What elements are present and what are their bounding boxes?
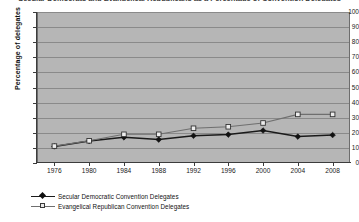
x-tick-label: 1980 — [74, 167, 104, 174]
data-point-marker — [330, 112, 335, 117]
y-axis-title: Percentage of delegates — [14, 0, 21, 104]
data-point-marker — [295, 134, 301, 140]
x-tick-label: 1996 — [213, 167, 243, 174]
chart-legend: Secular Democratic Convention Delegates … — [31, 191, 189, 211]
data-point-marker — [226, 124, 231, 129]
x-tick-label: 1984 — [109, 167, 139, 174]
open-square-icon — [31, 201, 55, 211]
legend-label: Secular Democratic Convention Delegates — [58, 193, 179, 200]
x-tick-mark — [298, 163, 299, 166]
y-tick-mark — [33, 163, 37, 164]
data-point-marker — [261, 121, 266, 126]
data-point-marker — [52, 144, 57, 149]
x-tick-label: 1992 — [179, 167, 209, 174]
x-tick-label: 1988 — [144, 167, 174, 174]
legend-label: Evangelical Republican Convention Delega… — [58, 203, 189, 210]
data-point-marker — [191, 133, 197, 139]
x-tick-mark — [159, 163, 160, 166]
data-point-marker — [87, 139, 92, 144]
data-point-marker — [330, 132, 336, 138]
data-point-marker — [156, 132, 161, 137]
x-tick-mark — [89, 163, 90, 166]
x-tick-label: 1976 — [39, 167, 69, 174]
data-point-marker — [296, 112, 301, 117]
data-point-marker — [260, 128, 266, 134]
x-tick-label: 2008 — [318, 167, 348, 174]
x-tick-label: 2000 — [248, 167, 278, 174]
filled-diamond-icon — [31, 191, 55, 201]
x-tick-mark — [228, 163, 229, 166]
data-point-marker — [191, 126, 196, 131]
x-tick-mark — [124, 163, 125, 166]
data-point-marker — [225, 132, 231, 138]
data-point-marker — [122, 132, 127, 137]
legend-item-evangelical-republican: Evangelical Republican Convention Delega… — [31, 201, 189, 211]
x-tick-mark — [333, 163, 334, 166]
legend-item-secular-democratic: Secular Democratic Convention Delegates — [31, 191, 189, 201]
series-layer — [37, 12, 350, 163]
chart-figure: Secular Democrats and Evangelical Republ… — [0, 0, 359, 222]
x-tick-label: 2004 — [283, 167, 313, 174]
x-tick-mark — [263, 163, 264, 166]
x-tick-mark — [54, 163, 55, 166]
chart-title: Secular Democrats and Evangelical Republ… — [0, 0, 359, 1]
data-point-marker — [156, 137, 162, 143]
x-tick-mark — [194, 163, 195, 166]
